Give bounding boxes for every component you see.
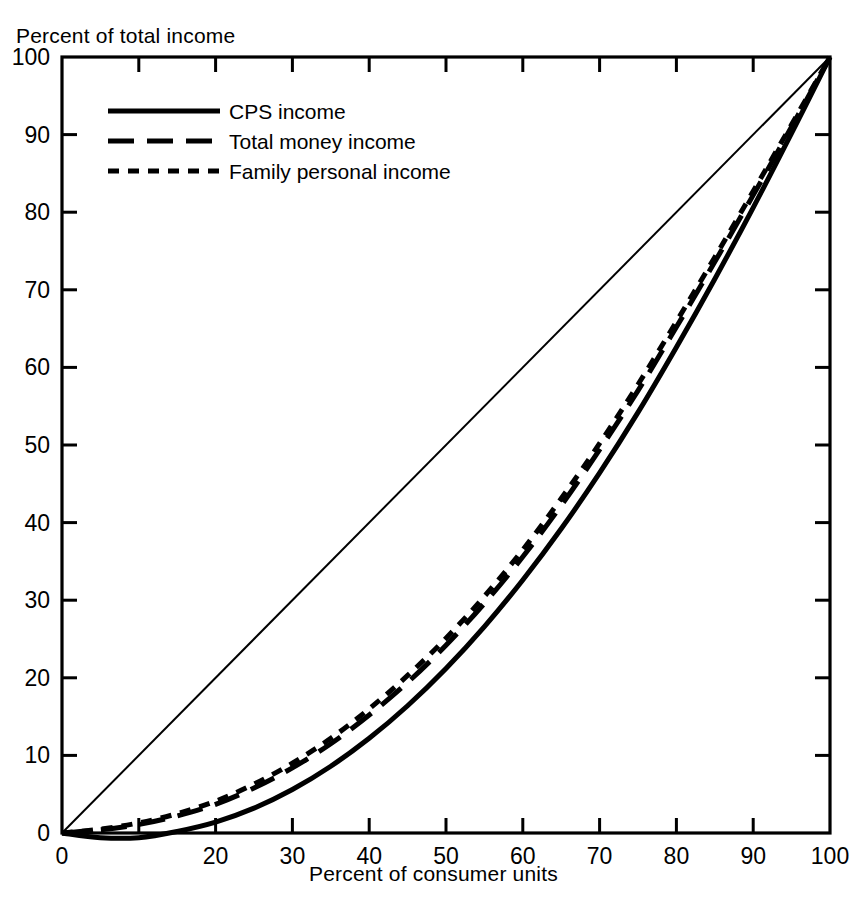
- legend-item-label: Family personal income: [229, 161, 451, 182]
- x-tick-label: 20: [203, 843, 229, 870]
- legend-item: Family personal income: [108, 156, 508, 186]
- x-tick-label: 0: [56, 843, 69, 870]
- legend-item-label: CPS income: [229, 101, 346, 122]
- legend-line-swatch: [108, 164, 220, 178]
- y-tick-label: 40: [0, 509, 50, 536]
- x-tick-label: 70: [587, 843, 613, 870]
- chart-legend: CPS incomeTotal money incomeFamily perso…: [108, 96, 508, 186]
- y-tick-label: 90: [0, 121, 50, 148]
- y-tick-label: 60: [0, 354, 50, 381]
- lorenz-curve-chart: Percent of total income Percent of consu…: [0, 0, 867, 900]
- legend-line-swatch: [108, 104, 220, 118]
- legend-item-label: Total money income: [229, 131, 416, 152]
- legend-item: Total money income: [108, 126, 508, 156]
- y-tick-label: 80: [0, 199, 50, 226]
- x-tick-label: 60: [510, 843, 536, 870]
- y-tick-label: 100: [0, 44, 50, 71]
- y-tick-label: 50: [0, 432, 50, 459]
- y-tick-label: 20: [0, 664, 50, 691]
- y-tick-label: 10: [0, 742, 50, 769]
- y-tick-label: 30: [0, 587, 50, 614]
- x-tick-label: 30: [280, 843, 306, 870]
- x-tick-label: 50: [433, 843, 459, 870]
- x-tick-label: 40: [356, 843, 382, 870]
- legend-item: CPS income: [108, 96, 508, 126]
- x-tick-label: 90: [740, 843, 766, 870]
- y-tick-label: 0: [0, 820, 50, 847]
- y-tick-label: 70: [0, 276, 50, 303]
- legend-line-swatch: [108, 134, 220, 148]
- x-tick-label: 80: [664, 843, 690, 870]
- x-tick-label: 100: [811, 843, 849, 870]
